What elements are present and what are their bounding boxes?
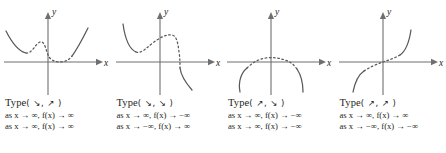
y-axis-label: y — [51, 7, 57, 17]
graph-plot-3: x y — [223, 0, 335, 95]
curve-right-solid-3 — [297, 69, 303, 92]
limit-right-line-3: as x → ∞, f(x) → −∞ — [228, 110, 336, 121]
x-axis-label: x — [215, 58, 221, 68]
x-axis — [227, 59, 326, 65]
type-arrows-3: ( ↗, ↘ ) — [249, 98, 285, 108]
y-axis-label: y — [386, 7, 392, 17]
graph-svg-3: x y — [223, 0, 335, 95]
curve-description-4: S-shaped cubic rising from lower left th… — [335, 95, 336, 96]
type-arrows-1: ( ↘, ↗ ) — [26, 98, 62, 108]
curve-description-1: W-shaped quartic: falls from upper left,… — [0, 95, 1, 96]
type-label-2: Type — [117, 97, 138, 108]
limit-left-line-2: as x → −∞, f(x) → ∞ — [117, 121, 225, 132]
type-arrows-4: ( ↗, ↗ ) — [361, 98, 397, 108]
type-line-1: Type( ↘, ↗ ) — [5, 96, 113, 110]
graph-svg-1: x y — [0, 0, 112, 95]
x-axis — [4, 59, 103, 65]
type-label-1: Type — [5, 97, 26, 108]
end-behavior-figure: x y Type( ↘, ↗ ) as x → ∞, f(x) → ∞ as x… — [0, 0, 446, 153]
limit-right-line-4: as x → ∞, f(x) → ∞ — [340, 110, 446, 121]
caption-1: Type( ↘, ↗ ) as x → ∞, f(x) → ∞ as x → ∞… — [5, 96, 113, 133]
curve-description-3: Arch shape: rises from lower left, flat … — [223, 95, 224, 96]
limit-right-line-1: as x → ∞, f(x) → ∞ — [5, 110, 113, 121]
limit-left-line-3: as x → ∞, f(x) → −∞ — [228, 121, 336, 132]
caption-2: Type( ↘, ↘ ) as x → ∞, f(x) → −∞ as x → … — [117, 96, 225, 133]
panel-type-up-up: x y Type( ↗, ↗ ) as x → ∞, f(x) → ∞ as x… — [335, 0, 446, 153]
curve-right-solid-2 — [180, 68, 192, 90]
x-axis-label: x — [438, 58, 444, 68]
panel-type-down-up: x y Type( ↘, ↗ ) as x → ∞, f(x) → ∞ as x… — [0, 0, 112, 153]
y-axis — [379, 12, 385, 95]
y-axis — [156, 12, 162, 95]
curve-middle-dashed-4 — [364, 55, 400, 71]
graph-svg-4: x y — [335, 0, 446, 95]
curve-right-solid-1 — [72, 28, 88, 56]
x-axis-label: x — [326, 58, 332, 68]
limit-left-line-4: as x → −∞, f(x) → −∞ — [340, 121, 446, 132]
type-line-2: Type( ↘, ↘ ) — [117, 96, 225, 110]
type-arrows-2: ( ↘, ↘ ) — [138, 98, 174, 108]
x-axis-label: x — [103, 58, 109, 68]
type-line-3: Type( ↗, ↘ ) — [228, 96, 336, 110]
y-axis — [268, 12, 274, 95]
curve-description-2: Falls from upper left to local min, rise… — [112, 95, 113, 96]
curve-left-solid-4 — [353, 71, 364, 92]
limit-right-line-2: as x → ∞, f(x) → −∞ — [117, 110, 225, 121]
caption-3: Type( ↗, ↘ ) as x → ∞, f(x) → −∞ as x → … — [228, 96, 336, 133]
y-axis-label: y — [274, 7, 280, 17]
graph-plot-2: x y — [112, 0, 224, 95]
panel-type-down-down: x y Type( ↘, ↘ ) as x → ∞, f(x) → −∞ as … — [112, 0, 224, 153]
caption-4: Type( ↗, ↗ ) as x → ∞, f(x) → ∞ as x → −… — [340, 96, 446, 133]
graph-svg-2: x y — [112, 0, 224, 95]
curve-right-solid-4 — [400, 30, 411, 55]
x-axis — [116, 59, 215, 65]
curve-left-solid-2 — [123, 24, 136, 52]
type-label-3: Type — [228, 97, 249, 108]
curve-left-solid-3 — [239, 68, 247, 92]
panel-type-up-down: x y Type( ↗, ↘ ) as x → ∞, f(x) → −∞ as … — [223, 0, 335, 153]
graph-plot-4: x y — [335, 0, 446, 95]
y-axis-label: y — [163, 7, 169, 17]
type-label-4: Type — [340, 97, 361, 108]
curve-middle-dashed-1 — [26, 42, 72, 62]
curve-left-solid-1 — [6, 31, 26, 53]
graph-plot-1: x y — [0, 0, 112, 95]
limit-left-line-1: as x → ∞, f(x) → ∞ — [5, 121, 113, 132]
curve-middle-dashed-3 — [247, 58, 297, 69]
type-line-4: Type( ↗, ↗ ) — [340, 96, 446, 110]
curve-middle-dashed-2 — [136, 35, 180, 68]
